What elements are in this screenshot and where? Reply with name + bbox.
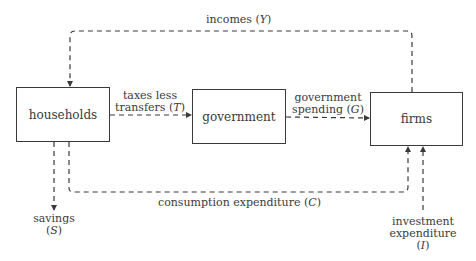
consumption-symbol: C xyxy=(308,196,316,209)
gov-spending-line2: spending xyxy=(292,103,343,116)
taxes-symbol: T xyxy=(173,101,180,114)
incomes-label: incomes (Y) xyxy=(206,14,271,26)
incomes-flow-arrow xyxy=(70,31,412,92)
households-label: households xyxy=(29,108,98,122)
firms-node: firms xyxy=(370,92,463,146)
savings-symbol: S xyxy=(50,224,58,237)
investment-label: investment expenditure (I) xyxy=(388,216,458,252)
consumption-label: consumption expenditure (C) xyxy=(158,197,321,209)
investment-symbol: I xyxy=(421,239,425,252)
incomes-text: incomes xyxy=(206,13,252,26)
government-label: government xyxy=(202,110,275,124)
households-node: households xyxy=(16,87,110,142)
savings-label: savings (S) xyxy=(30,213,78,237)
government-spending-label: government spending (G) xyxy=(292,92,364,116)
government-spending-flow-arrow xyxy=(286,117,369,118)
incomes-symbol: Y xyxy=(260,13,267,26)
taxes-label: taxes less transfers (T) xyxy=(114,90,186,114)
government-node: government xyxy=(192,89,286,144)
taxes-line2: transfers xyxy=(115,101,165,114)
firms-label: firms xyxy=(401,112,432,126)
consumption-text: consumption expenditure xyxy=(158,196,300,209)
consumption-flow-arrow xyxy=(69,142,408,192)
gov-spending-symbol: G xyxy=(351,103,360,116)
